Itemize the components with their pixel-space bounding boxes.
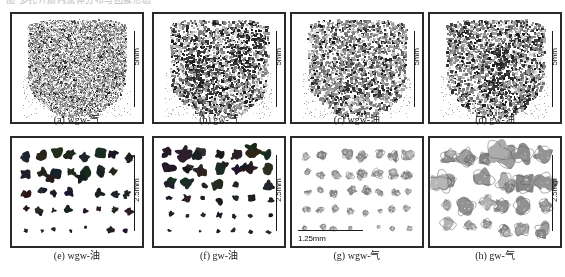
panel-canvas — [154, 14, 284, 122]
caption-row-top: (a) wgw-气 (b) gw-气 (c) wgw-油 (d) gw-油 — [0, 114, 565, 128]
figure-panel-e: 2.5mm — [10, 136, 144, 248]
panel-frame: 2.5mm — [428, 136, 562, 248]
scale-bar-label: 5mm — [274, 48, 283, 65]
panel-frame: 5mm — [152, 12, 286, 124]
scale-bar-label: 5mm — [550, 48, 559, 65]
figure-root: 图 多孔介质内流体分布与团簇形态 5mm 5mm 5mm 5mm (a) wgw… — [0, 0, 565, 277]
panel-caption-a: (a) wgw-气 — [10, 114, 144, 126]
panel-frame: 1.25mm — [290, 136, 424, 248]
scale-bar-label: 1.25mm — [298, 234, 326, 243]
panel-canvas — [154, 138, 284, 246]
panel-caption-g: (g) wgw-气 — [290, 250, 424, 262]
panel-image-e: 2.5mm — [12, 138, 142, 246]
panel-image-d: 5mm — [430, 14, 560, 122]
caption-wrap-e: (e) wgw-油 — [10, 250, 144, 264]
panel-row-bottom: 2.5mm 2.5mm 1.25mm 2.5mm — [0, 136, 565, 248]
panel-image-g: 1.25mm — [292, 138, 422, 246]
panel-caption-c: (c) wgw-油 — [290, 114, 424, 126]
panel-caption-f: (f) gw-油 — [152, 250, 286, 262]
scale-bar-label: 2.5mm — [550, 179, 559, 202]
panel-image-h: 2.5mm — [430, 138, 560, 246]
scale-bar — [552, 31, 553, 107]
panel-canvas — [430, 138, 560, 246]
caption-wrap-h: (h) gw-气 — [428, 250, 562, 264]
panel-image-a: 5mm — [12, 14, 142, 122]
figure-panel-d: 5mm — [428, 12, 562, 124]
panel-image-f: 2.5mm — [154, 138, 284, 246]
panel-caption-h: (h) gw-气 — [428, 250, 562, 262]
figure-panel-a: 5mm — [10, 12, 144, 124]
truncated-heading-text: 图 多孔介质内流体分布与团簇形态 — [6, 0, 306, 5]
figure-panel-h: 2.5mm — [428, 136, 562, 248]
panel-canvas — [430, 14, 560, 122]
caption-wrap-f: (f) gw-油 — [152, 250, 286, 264]
scale-bar-label: 2.5mm — [132, 179, 141, 202]
scale-bar — [134, 31, 135, 107]
panel-caption-b: (b) gw-气 — [152, 114, 286, 126]
caption-wrap-c: (c) wgw-油 — [290, 114, 424, 128]
panel-frame: 5mm — [428, 12, 562, 124]
figure-panel-b: 5mm — [152, 12, 286, 124]
figure-panel-f: 2.5mm — [152, 136, 286, 248]
caption-wrap-g: (g) wgw-气 — [290, 250, 424, 264]
panel-canvas — [12, 14, 142, 122]
panel-caption-d: (d) gw-油 — [428, 114, 562, 126]
caption-wrap-d: (d) gw-油 — [428, 114, 562, 128]
figure-panel-g: 1.25mm — [290, 136, 424, 248]
panel-frame: 2.5mm — [152, 136, 286, 248]
scale-bar-label: 2.5mm — [274, 179, 283, 202]
panel-canvas — [292, 14, 422, 122]
caption-wrap-a: (a) wgw-气 — [10, 114, 144, 128]
scale-bar-label: 5mm — [132, 48, 141, 65]
scale-bar — [414, 31, 415, 107]
scale-bar — [276, 31, 277, 107]
panel-canvas — [12, 138, 142, 246]
caption-row-bottom: (e) wgw-油 (f) gw-油 (g) wgw-气 (h) gw-气 — [0, 250, 565, 264]
caption-wrap-b: (b) gw-气 — [152, 114, 286, 128]
panel-frame: 5mm — [10, 12, 144, 124]
panel-caption-e: (e) wgw-油 — [10, 250, 144, 262]
scale-bar — [298, 230, 363, 231]
panel-frame: 5mm — [290, 12, 424, 124]
panel-row-top: 5mm 5mm 5mm 5mm — [0, 12, 565, 124]
panel-image-b: 5mm — [154, 14, 284, 122]
scale-bar-label: 5mm — [412, 48, 421, 65]
panel-image-c: 5mm — [292, 14, 422, 122]
figure-panel-c: 5mm — [290, 12, 424, 124]
panel-frame: 2.5mm — [10, 136, 144, 248]
